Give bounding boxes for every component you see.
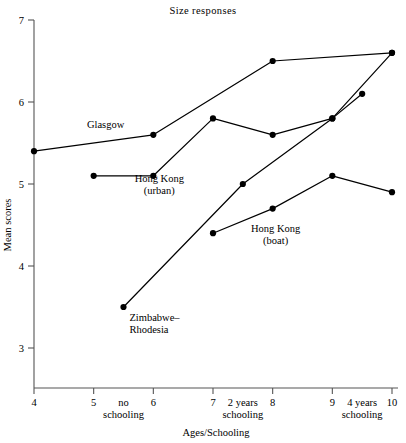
series-label-sub: (boat) [263,235,289,247]
data-point-marker [91,173,97,179]
x-tick-label: 9 [330,397,335,408]
data-point-marker [150,132,156,138]
x-secondary-annotation-line2: schooling [342,409,384,420]
data-point-marker [210,115,216,121]
data-point-marker [210,230,216,236]
x-secondary-annotation-line1: 2 years [228,397,258,408]
x-tick-label: 4 [31,397,37,408]
x-tick-label: 7 [210,397,215,408]
y-tick-label: 6 [19,97,24,108]
series-label: Hong Kong [135,173,185,184]
series-label-sub: (urban) [144,185,175,197]
data-point-marker [329,115,335,121]
x-secondary-annotation-line1: no [118,397,129,408]
data-point-marker [270,58,276,64]
series-label: Hong Kong [251,223,301,234]
data-point-marker [270,206,276,212]
data-point-marker [120,304,126,310]
x-tick-label: 10 [387,397,398,408]
chart-title: Size responses [169,5,236,16]
x-secondary-annotation-line1: 4 years [347,397,377,408]
data-point-marker [329,173,335,179]
x-secondary-annotation-line2: schooling [103,409,145,420]
data-point-marker [31,148,37,154]
y-tick-label: 5 [19,179,24,190]
series-label-sub: Rhodesia [129,324,168,335]
x-tick-label: 6 [151,397,156,408]
y-tick-label: 3 [19,343,24,354]
y-tick-label: 4 [19,261,25,272]
data-point-marker [389,50,395,56]
data-point-marker [389,189,395,195]
x-secondary-annotation-line2: schooling [222,409,264,420]
chart-background [0,0,406,443]
x-tick-label: 8 [270,397,275,408]
x-axis-label: Ages/Schooling [182,427,250,438]
data-point-marker [270,132,276,138]
data-point-marker [359,91,365,97]
series-label: Glasgow [87,119,125,130]
chart-figure: Size responses 34567 45678910 noschoolin… [0,0,406,443]
data-point-marker [240,181,246,187]
y-axis-label: Mean scores [2,199,13,252]
x-tick-label: 5 [91,397,96,408]
series-label: Zimbabwe– [129,312,180,323]
y-tick-label: 7 [19,15,24,26]
